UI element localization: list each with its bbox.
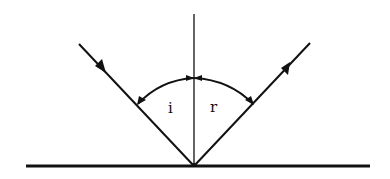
point-of-incidence — [192, 163, 196, 167]
arc-arrow-top-left-icon — [186, 75, 194, 81]
incident-ray — [79, 44, 194, 166]
angle-of-reflection-label: r — [210, 100, 217, 115]
angle-of-incidence-label: i — [168, 101, 173, 116]
incidence-angle-arc — [138, 78, 194, 104]
reflection-angle-arc — [194, 78, 253, 104]
incident-arrow-icon — [95, 59, 106, 73]
arc-arrow-top-right-icon — [194, 75, 202, 81]
reflection-diagram — [0, 0, 390, 179]
